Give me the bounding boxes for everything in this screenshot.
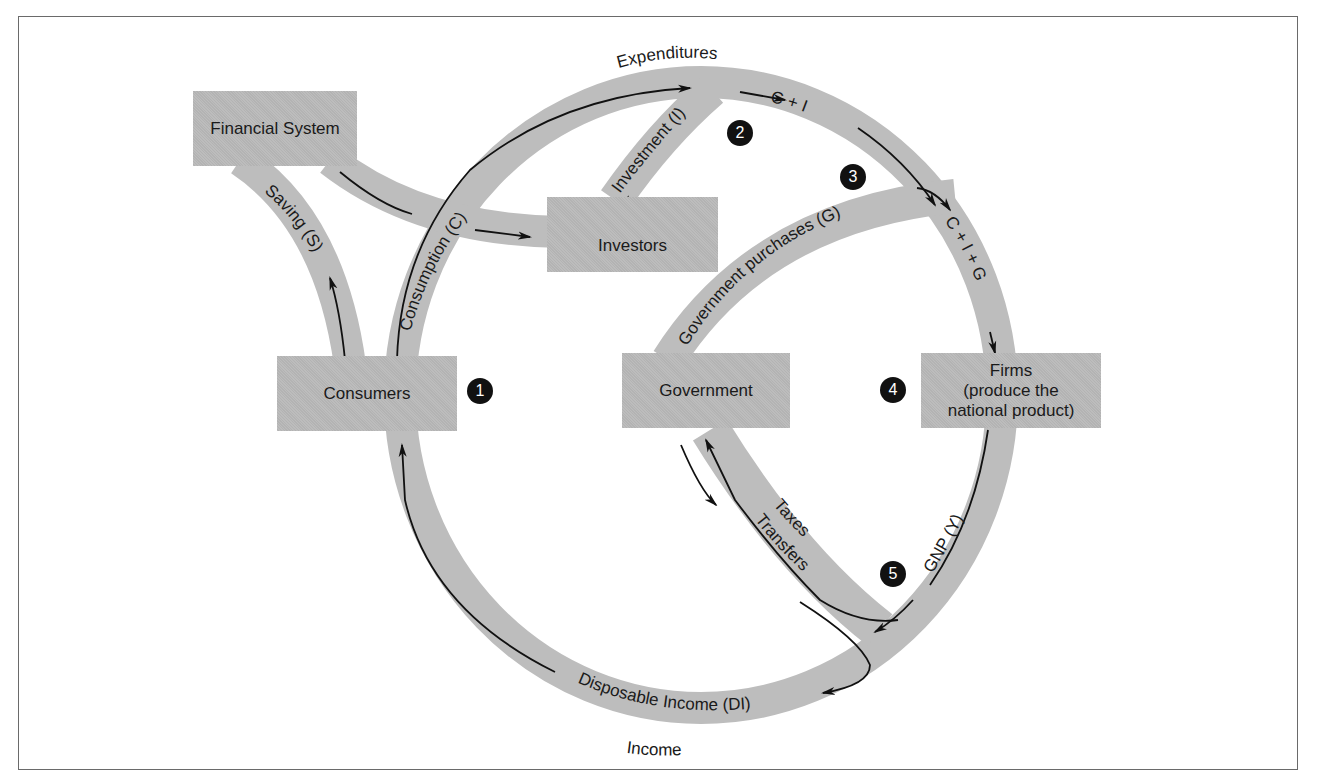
node-financial-system: Financial System xyxy=(193,91,357,166)
badge-1-label: 1 xyxy=(476,382,485,400)
node-firms: Firms (produce the national product) xyxy=(921,353,1101,428)
node-consumers: Consumers xyxy=(277,356,457,431)
badge-5-label: 5 xyxy=(889,565,898,583)
badge-3-label: 3 xyxy=(849,168,858,186)
badge-5: 5 xyxy=(880,561,906,587)
badge-1: 1 xyxy=(467,378,493,404)
node-firms-line3: national product) xyxy=(948,401,1075,421)
badge-2-label: 2 xyxy=(736,124,745,142)
node-financial-system-label: Financial System xyxy=(210,119,339,139)
node-investors-label: Investors xyxy=(598,236,667,256)
node-firms-line1: Firms xyxy=(990,361,1032,381)
badge-4-label: 4 xyxy=(889,381,898,399)
badge-2: 2 xyxy=(727,120,753,146)
node-consumers-label: Consumers xyxy=(324,384,411,404)
label-income: Income xyxy=(626,738,682,760)
badge-3: 3 xyxy=(840,164,866,190)
badge-4: 4 xyxy=(880,377,906,403)
node-government: Government xyxy=(622,353,790,428)
node-investors: Investors xyxy=(547,197,718,272)
node-firms-line2: (produce the xyxy=(963,381,1058,401)
node-government-label: Government xyxy=(659,381,753,401)
